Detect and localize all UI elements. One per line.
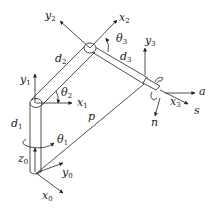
axis-n	[155, 98, 160, 116]
label-a: a	[199, 86, 206, 97]
link-1	[30, 103, 41, 174]
manipulator-diagram	[0, 0, 215, 211]
label-x0: x0	[42, 190, 53, 203]
label-y0: y0	[62, 167, 73, 180]
label-x2: x2	[119, 12, 130, 25]
label-theta2: θ2	[61, 87, 72, 100]
label-n: n	[151, 117, 158, 128]
label-d3: d3	[120, 51, 132, 64]
link-3	[88, 43, 148, 84]
label-p: p	[88, 111, 95, 122]
label-s: s	[194, 105, 200, 116]
label-d1: d1	[11, 118, 23, 131]
axis-y0	[36, 163, 63, 173]
label-theta1: θ1	[57, 134, 68, 147]
gripper	[143, 78, 163, 101]
label-y3: y3	[145, 35, 156, 48]
vector-p	[38, 84, 144, 172]
label-d2: d2	[55, 53, 67, 66]
angle-theta1	[23, 139, 54, 148]
label-z0: z0	[18, 153, 28, 166]
axis-x2	[90, 20, 117, 48]
label-y1: y1	[20, 74, 31, 87]
angle-theta3	[106, 38, 109, 52]
label-y2: y2	[45, 10, 56, 23]
label-x3: x3	[170, 96, 181, 109]
label-x1: x1	[77, 97, 88, 110]
label-theta3: θ3	[116, 33, 127, 46]
angle-theta2	[56, 91, 58, 103]
axis-y2	[60, 21, 90, 48]
